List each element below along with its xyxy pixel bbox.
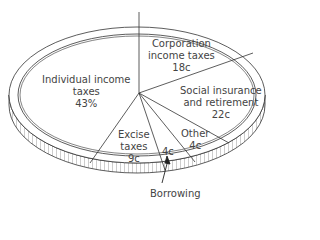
label-social: Social insurance and retirement 22c [180, 85, 262, 121]
label-individual-line2: taxes [42, 86, 131, 98]
label-corporation-line1: Corporation [148, 38, 215, 50]
label-other-line1: Other [181, 128, 209, 140]
label-individual-value: 43% [42, 98, 131, 110]
label-corporation: Corporation income taxes 18c [148, 38, 215, 74]
label-borrowing-value: 4c [162, 146, 174, 158]
label-corporation-value: 18c [148, 62, 215, 74]
label-excise: Excise taxes 9c [118, 129, 150, 165]
label-borrowing-name: Borrowing [150, 188, 201, 200]
label-other: Other 4c [181, 128, 209, 152]
label-excise-line2: taxes [118, 141, 150, 153]
label-individual: Individual income taxes 43% [42, 74, 131, 110]
label-individual-line1: Individual income [42, 74, 131, 86]
label-other-value: 4c [181, 140, 209, 152]
label-social-line2: and retirement [180, 97, 262, 109]
label-social-line1: Social insurance [180, 85, 262, 97]
label-social-value: 22c [180, 109, 262, 121]
label-corporation-line2: income taxes [148, 50, 215, 62]
label-excise-line1: Excise [118, 129, 150, 141]
label-excise-value: 9c [118, 153, 150, 165]
